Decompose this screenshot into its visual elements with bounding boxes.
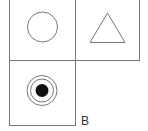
circle-shape [28,12,58,42]
label-b: B [81,115,89,127]
concentric-target-shape [27,76,57,106]
triangle-shape [90,13,125,43]
cell-top-right [76,0,140,61]
cell-top-left [10,0,76,61]
grid-diagram [0,0,148,131]
